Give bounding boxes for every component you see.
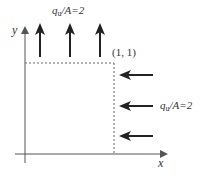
right-load-label: qu/A=2 bbox=[160, 99, 192, 113]
right-load-arrows bbox=[121, 75, 153, 136]
top-load-arrows bbox=[40, 25, 100, 57]
x-axis-label: x bbox=[158, 156, 163, 171]
dashed-domain-boundary bbox=[25, 63, 114, 154]
corner-point-label: (1, 1) bbox=[112, 46, 136, 58]
diagram-svg bbox=[0, 0, 208, 178]
y-axis-label: y bbox=[12, 23, 17, 38]
top-load-label: qu/A=2 bbox=[52, 4, 84, 18]
diagram-canvas: y x (1, 1) qu/A=2 qu/A=2 bbox=[0, 0, 208, 178]
